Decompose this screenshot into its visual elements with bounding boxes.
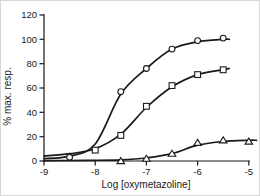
triangle-marker: [194, 139, 202, 145]
circle-marker: [195, 38, 201, 44]
circle-series-curve: [44, 39, 229, 158]
x-tick-label: -9: [40, 166, 48, 177]
y-tick-label: 40: [26, 107, 37, 118]
y-tick-label: 0: [32, 155, 37, 166]
circle-marker: [220, 35, 226, 41]
y-tick-label: 100: [21, 34, 37, 45]
x-tick-label: -7: [142, 166, 150, 177]
square-marker: [144, 103, 150, 109]
square-series: [44, 67, 229, 156]
square-marker: [195, 72, 201, 78]
circle-marker: [118, 89, 124, 95]
x-tick-label: -6: [193, 166, 201, 177]
square-series-curve: [44, 69, 229, 157]
chart-canvas: 020406080100120-9-8-7-6-5: [1, 1, 260, 196]
x-axis-title: Log [oxymetazoline]: [46, 178, 246, 192]
circle-marker: [169, 46, 175, 52]
triangle-marker: [219, 137, 227, 143]
y-tick-label: 60: [26, 82, 37, 93]
y-tick-label: 20: [26, 131, 37, 142]
square-marker: [118, 133, 124, 139]
circle-marker: [67, 154, 73, 160]
circle-marker: [144, 66, 150, 72]
y-tick-label: 120: [21, 9, 37, 20]
square-marker: [169, 83, 175, 89]
x-tick-label: -8: [91, 166, 99, 177]
y-axis-title: % max. resp.: [1, 22, 14, 172]
x-tick-label: -5: [245, 166, 253, 177]
square-marker: [220, 67, 226, 73]
y-tick-label: 80: [26, 58, 37, 69]
circle-series: [44, 35, 229, 160]
dose-response-figure: 020406080100120-9-8-7-6-5 % max. resp. L…: [0, 0, 260, 196]
triangle-series: [44, 137, 257, 164]
square-marker: [92, 147, 98, 153]
tick-labels: 020406080100120-9-8-7-6-5: [21, 9, 253, 177]
